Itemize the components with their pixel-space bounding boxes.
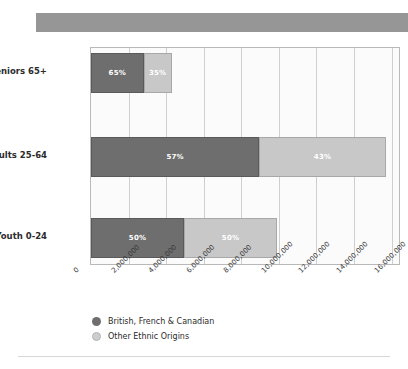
bar-segment-label: 50% (129, 234, 146, 242)
bar-segment-label: 65% (109, 69, 126, 77)
bar-segment: 35% (144, 53, 172, 93)
bar-segment: 43% (259, 137, 386, 177)
category-label: Adults 25-64 (0, 150, 47, 160)
legend-label: Other Ethnic Origins (108, 332, 189, 341)
legend-label: British, French & Canadian (108, 317, 214, 326)
chart-card: 65%35%57%43%50%50% Seniors 65+Adults 25-… (18, 0, 390, 357)
bar-segment-label: 35% (149, 69, 166, 77)
legend-item[interactable]: Other Ethnic Origins (92, 329, 214, 344)
bar-row: 57%43% (91, 137, 401, 177)
bar-segment: 57% (91, 137, 259, 177)
chart-legend: British, French & CanadianOther Ethnic O… (92, 314, 214, 344)
plot-area: 65%35%57%43%50%50% (90, 47, 400, 265)
x-tick-label: 0 (72, 266, 81, 275)
legend-swatch-icon (92, 317, 101, 326)
header-banner (36, 13, 408, 32)
legend-swatch-icon (92, 332, 101, 341)
bar-segment: 50% (184, 218, 277, 258)
bar-segment-label: 57% (166, 153, 183, 161)
category-label: Youth 0-24 (0, 231, 47, 241)
bar-segment-label: 43% (314, 153, 331, 161)
bar-segment-label: 50% (222, 234, 239, 242)
category-label: Seniors 65+ (0, 66, 47, 76)
bar-segment: 65% (91, 53, 144, 93)
bar-row: 65%35% (91, 53, 401, 93)
legend-item[interactable]: British, French & Canadian (92, 314, 214, 329)
